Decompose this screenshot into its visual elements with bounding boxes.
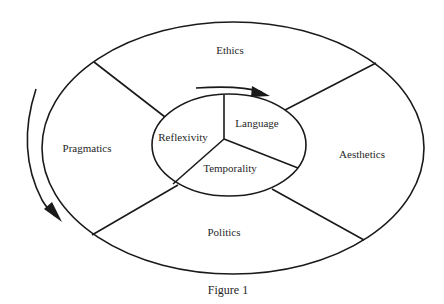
outer-arrow-arc: [27, 89, 55, 216]
figure-caption: Figure 1: [208, 284, 248, 297]
divider-pragmatics-politics: [92, 185, 178, 235]
outer-arrowhead-icon: [44, 202, 62, 222]
label-politics: Politics: [207, 226, 240, 239]
label-temporality: Temporality: [203, 162, 257, 175]
label-ethics: Ethics: [216, 44, 244, 57]
divider-politics-aesthetics: [272, 189, 364, 240]
divider-ethics-pragmatics: [94, 62, 165, 117]
divider-ethics-aesthetics: [285, 63, 376, 110]
inner-arrowhead-icon: [251, 86, 270, 97]
label-reflexivity: Reflexivity: [158, 131, 208, 144]
label-language: Language: [235, 117, 278, 130]
inner-ellipse: [152, 94, 306, 196]
label-aesthetics: Aesthetics: [339, 148, 385, 161]
label-pragmatics: Pragmatics: [63, 142, 112, 155]
